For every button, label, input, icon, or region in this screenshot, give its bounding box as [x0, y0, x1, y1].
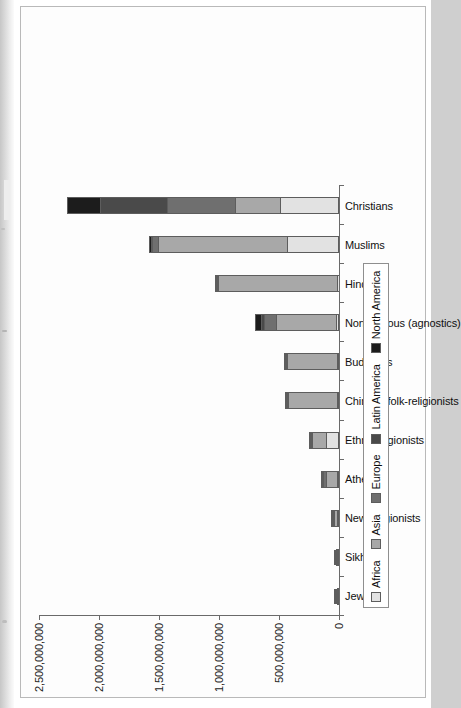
bar-segment-asia — [159, 237, 288, 252]
legend-label: Europe — [370, 455, 382, 490]
bar-ethnoreligionists[interactable] — [309, 432, 339, 449]
bar-segment-africa — [337, 315, 338, 330]
bar-sikhs[interactable] — [336, 549, 339, 566]
x-axis-tick — [339, 380, 344, 381]
bar-new-religionists[interactable] — [331, 510, 339, 527]
category-label: Christians — [345, 200, 393, 212]
y-axis-tick-label: 500,000,000 — [273, 623, 285, 683]
bar-segment-africa — [281, 198, 339, 213]
bar-segment-europe — [168, 198, 236, 213]
bar-hindus[interactable] — [215, 275, 339, 292]
legend-item[interactable]: Latin America — [370, 364, 382, 443]
bar-segment-asia — [337, 550, 338, 565]
bar-segment-europe — [265, 315, 277, 330]
legend-label: North America — [370, 271, 382, 339]
legend-label: Asia — [370, 514, 382, 535]
bar-nonreligious-agnostics[interactable] — [255, 314, 339, 331]
y-axis-tick-label: 1,000,000,000 — [213, 623, 225, 692]
category-label: Muslims — [345, 239, 385, 251]
legend-swatch-icon — [371, 592, 381, 602]
legend-item[interactable]: Europe — [370, 455, 382, 504]
bar-segment-asia — [277, 315, 337, 330]
x-axis-tick — [339, 576, 344, 577]
x-axis-tick — [339, 185, 344, 186]
bar-segment-africa — [288, 237, 338, 252]
y-axis-tick — [339, 616, 340, 620]
legend-swatch-icon — [371, 493, 381, 503]
bar-muslims[interactable] — [149, 236, 339, 253]
legend-swatch-icon — [371, 539, 381, 549]
bar-segment-africa — [327, 433, 338, 448]
bar-segment-latin-america — [101, 198, 168, 213]
bar-christians[interactable] — [67, 197, 339, 214]
plot-area: 0500,000,0001,000,000,0001,500,000,0002,… — [39, 186, 339, 616]
y-axis-tick — [219, 616, 220, 620]
bar-segment-north-america — [68, 198, 102, 213]
scan-artifact — [2, 330, 7, 332]
stacked-bar-chart: 0500,000,0001,000,000,0001,500,000,0002,… — [25, 34, 405, 674]
bar-atheists[interactable] — [321, 471, 339, 488]
y-axis-tick-label: 2,000,000,000 — [93, 623, 105, 692]
bar-chinese-folk-religionists[interactable] — [285, 393, 339, 410]
x-axis-line — [339, 186, 340, 616]
legend-swatch-icon — [371, 343, 381, 353]
y-axis-tick — [99, 616, 100, 620]
bar-segment-asia — [335, 511, 338, 526]
scan-artifact — [4, 180, 10, 220]
y-axis-line — [39, 615, 339, 616]
x-axis-tick — [339, 615, 344, 616]
y-axis-tick-label: 2,500,000,000 — [33, 623, 45, 692]
x-axis-tick — [339, 341, 344, 342]
y-axis-tick-label: 1,500,000,000 — [153, 623, 165, 692]
legend-item[interactable]: Africa — [370, 560, 382, 602]
bar-segment-asia — [313, 433, 327, 448]
x-axis-tick — [339, 420, 344, 421]
x-axis-tick — [339, 224, 344, 225]
y-axis-tick — [159, 616, 160, 620]
y-axis-tick — [279, 616, 280, 620]
x-axis-tick — [339, 302, 344, 303]
bar-segment-asia — [327, 472, 338, 487]
bar-segment-asia — [236, 198, 280, 213]
scan-artifact — [2, 620, 7, 623]
legend-label: Africa — [370, 560, 382, 588]
y-axis-tick-label: 0 — [333, 623, 345, 629]
bar-jews[interactable] — [337, 588, 339, 605]
x-axis-tick — [339, 459, 344, 460]
scan-artifact — [1, 228, 5, 230]
chart-legend: AfricaAsiaEuropeLatin AmericaNorth Ameri… — [363, 263, 389, 608]
x-axis-tick — [339, 498, 344, 499]
legend-item[interactable]: North America — [370, 271, 382, 353]
bar-segment-asia — [219, 276, 338, 291]
bar-segment-asia — [289, 394, 338, 409]
page-binding-edge — [0, 0, 14, 708]
bar-segment-asia — [288, 354, 338, 369]
y-axis-tick — [39, 616, 40, 620]
rotated-chart-stage: 0500,000,0001,000,000,0001,500,000,0002,… — [25, 34, 405, 674]
bar-segment-asia — [337, 589, 338, 604]
legend-item[interactable]: Asia — [370, 514, 382, 549]
x-axis-tick — [339, 263, 344, 264]
x-axis-tick — [339, 537, 344, 538]
legend-swatch-icon — [371, 434, 381, 444]
bar-buddhists[interactable] — [284, 353, 339, 370]
legend-label: Latin America — [370, 364, 382, 429]
